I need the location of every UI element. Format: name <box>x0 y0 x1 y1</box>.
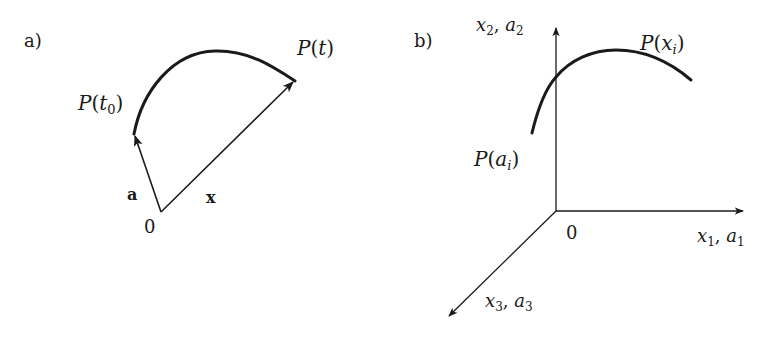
diagram-canvas: a) 0 a x P(t0) P(t) b) 0 x2, a2 x1, a1 x… <box>0 0 774 338</box>
point-p-ai-label: P(ai) <box>473 147 519 173</box>
axis-x3-label: x3, a3 <box>485 290 533 314</box>
panel-b: b) 0 x2, a2 x1, a1 x3, a3 P(ai) P(xi) <box>414 14 745 316</box>
vector-x-arrow <box>161 82 293 212</box>
origin-label-a: 0 <box>144 216 155 237</box>
origin-label-b: 0 <box>566 222 577 243</box>
panel-b-tag: b) <box>414 30 433 51</box>
point-p-xi-label: P(xi) <box>639 31 685 57</box>
panel-a-tag: a) <box>24 30 42 51</box>
point-p-t0-label: P(t0) <box>77 91 123 117</box>
vector-x-label: x <box>206 188 216 207</box>
axis-x1-label: x1, a1 <box>697 225 745 249</box>
vector-a-arrow <box>135 136 161 212</box>
curve-a <box>134 51 295 134</box>
vector-a-label: a <box>127 185 137 204</box>
axis-x2-label: x2, a2 <box>476 14 524 38</box>
point-p-t-label: P(t) <box>296 36 334 60</box>
panel-a: a) 0 a x P(t0) P(t) <box>24 30 334 237</box>
